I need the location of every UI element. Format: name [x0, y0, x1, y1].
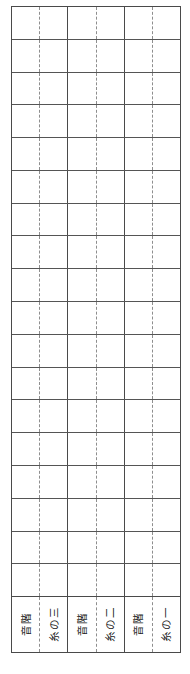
string-cell-row12-group3[interactable] — [40, 368, 67, 400]
string-cell-row4-group2[interactable] — [97, 105, 124, 137]
string-cell-row5-group2[interactable] — [97, 138, 124, 170]
string-cell-row1-group2[interactable] — [97, 7, 124, 39]
pitch-cell-row11-group1[interactable] — [125, 335, 153, 367]
table-row[interactable] — [12, 564, 180, 596]
pitch-cell-row4-group1[interactable] — [125, 105, 153, 137]
string-cell-row7-group3[interactable] — [40, 204, 67, 236]
pitch-cell-row8-group3[interactable] — [12, 236, 40, 268]
table-row[interactable] — [12, 171, 180, 204]
pitch-cell-row6-group1[interactable] — [125, 171, 153, 203]
pitch-cell-row8-group2[interactable] — [68, 236, 96, 268]
string-cell-row1-group1[interactable] — [153, 7, 180, 39]
pitch-cell-row12-group2[interactable] — [68, 368, 96, 400]
string-cell-row8-group1[interactable] — [153, 236, 180, 268]
pitch-cell-row15-group3[interactable] — [12, 466, 40, 498]
string-cell-row1-group3[interactable] — [40, 7, 67, 39]
string-cell-row5-group3[interactable] — [40, 138, 67, 170]
string-cell-row13-group3[interactable] — [40, 400, 67, 432]
string-cell-row15-group3[interactable] — [40, 466, 67, 498]
string-cell-row4-group3[interactable] — [40, 105, 67, 137]
pitch-cell-row2-group1[interactable] — [125, 40, 153, 72]
pitch-cell-row13-group1[interactable] — [125, 400, 153, 432]
pitch-cell-row1-group1[interactable] — [125, 7, 153, 39]
string-cell-row3-group3[interactable] — [40, 73, 67, 105]
pitch-cell-row17-group1[interactable] — [125, 532, 153, 564]
table-row[interactable] — [12, 105, 180, 138]
string-cell-row11-group3[interactable] — [40, 335, 67, 367]
string-cell-row16-group3[interactable] — [40, 499, 67, 531]
pitch-cell-row18-group1[interactable] — [125, 564, 153, 596]
table-row[interactable] — [12, 433, 180, 466]
pitch-cell-row17-group3[interactable] — [12, 532, 40, 564]
pitch-cell-row3-group1[interactable] — [125, 73, 153, 105]
table-row[interactable] — [12, 73, 180, 106]
pitch-cell-row9-group1[interactable] — [125, 269, 153, 301]
pitch-cell-row3-group2[interactable] — [68, 73, 96, 105]
pitch-cell-row10-group1[interactable] — [125, 302, 153, 334]
string-cell-row12-group1[interactable] — [153, 368, 180, 400]
string-cell-row18-group1[interactable] — [153, 564, 180, 596]
string-cell-row17-group3[interactable] — [40, 532, 67, 564]
string-cell-row8-group2[interactable] — [97, 236, 124, 268]
string-cell-row6-group1[interactable] — [153, 171, 180, 203]
table-row[interactable] — [12, 138, 180, 171]
pitch-cell-row18-group3[interactable] — [12, 564, 40, 596]
pitch-cell-row12-group3[interactable] — [12, 368, 40, 400]
string-cell-row6-group2[interactable] — [97, 171, 124, 203]
string-cell-row13-group2[interactable] — [97, 400, 124, 432]
pitch-cell-row2-group2[interactable] — [68, 40, 96, 72]
string-cell-row8-group3[interactable] — [40, 236, 67, 268]
string-cell-row15-group2[interactable] — [97, 466, 124, 498]
pitch-cell-row14-group3[interactable] — [12, 433, 40, 465]
string-cell-row12-group2[interactable] — [97, 368, 124, 400]
pitch-cell-row13-group3[interactable] — [12, 400, 40, 432]
string-cell-row10-group2[interactable] — [97, 302, 124, 334]
string-cell-row16-group2[interactable] — [97, 499, 124, 531]
pitch-cell-row5-group1[interactable] — [125, 138, 153, 170]
table-row[interactable] — [12, 368, 180, 401]
pitch-cell-row6-group3[interactable] — [12, 171, 40, 203]
string-cell-row11-group2[interactable] — [97, 335, 124, 367]
string-cell-row16-group1[interactable] — [153, 499, 180, 531]
pitch-cell-row15-group2[interactable] — [68, 466, 96, 498]
pitch-cell-row16-group3[interactable] — [12, 499, 40, 531]
pitch-cell-row7-group3[interactable] — [12, 204, 40, 236]
string-cell-row3-group1[interactable] — [153, 73, 180, 105]
table-row[interactable] — [12, 204, 180, 237]
string-cell-row14-group1[interactable] — [153, 433, 180, 465]
pitch-cell-row8-group1[interactable] — [125, 236, 153, 268]
pitch-cell-row18-group2[interactable] — [68, 564, 96, 596]
table-row[interactable] — [12, 40, 180, 73]
string-cell-row2-group3[interactable] — [40, 40, 67, 72]
pitch-cell-row5-group3[interactable] — [12, 138, 40, 170]
table-row[interactable] — [12, 499, 180, 532]
string-cell-row11-group1[interactable] — [153, 335, 180, 367]
string-cell-row2-group1[interactable] — [153, 40, 180, 72]
string-cell-row4-group1[interactable] — [153, 105, 180, 137]
string-cell-row14-group3[interactable] — [40, 433, 67, 465]
pitch-cell-row17-group2[interactable] — [68, 532, 96, 564]
string-cell-row6-group3[interactable] — [40, 171, 67, 203]
string-cell-row10-group3[interactable] — [40, 302, 67, 334]
pitch-cell-row10-group2[interactable] — [68, 302, 96, 334]
string-cell-row9-group1[interactable] — [153, 269, 180, 301]
pitch-cell-row9-group2[interactable] — [68, 269, 96, 301]
table-row[interactable] — [12, 269, 180, 302]
string-cell-row18-group3[interactable] — [40, 564, 67, 596]
pitch-cell-row15-group1[interactable] — [125, 466, 153, 498]
pitch-cell-row13-group2[interactable] — [68, 400, 96, 432]
string-cell-row17-group1[interactable] — [153, 532, 180, 564]
pitch-cell-row7-group1[interactable] — [125, 204, 153, 236]
table-row[interactable] — [12, 302, 180, 335]
string-cell-row3-group2[interactable] — [97, 73, 124, 105]
string-cell-row10-group1[interactable] — [153, 302, 180, 334]
pitch-cell-row3-group3[interactable] — [12, 73, 40, 105]
table-row[interactable] — [12, 7, 180, 40]
pitch-cell-row14-group2[interactable] — [68, 433, 96, 465]
string-cell-row7-group1[interactable] — [153, 204, 180, 236]
pitch-cell-row11-group3[interactable] — [12, 335, 40, 367]
table-row[interactable] — [12, 400, 180, 433]
pitch-cell-row9-group3[interactable] — [12, 269, 40, 301]
pitch-cell-row7-group2[interactable] — [68, 204, 96, 236]
string-cell-row15-group1[interactable] — [153, 466, 180, 498]
